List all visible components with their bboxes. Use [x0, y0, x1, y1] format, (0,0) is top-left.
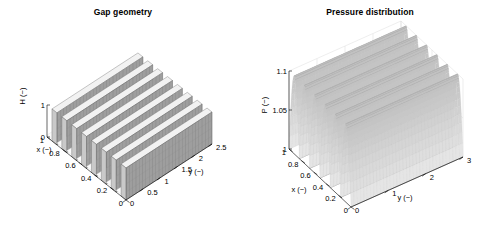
xtick-left: 0	[119, 199, 123, 208]
ytick-right: 3	[467, 156, 471, 165]
gap-geometry-axes: 00.20.40.60.8100.511.522.501 H (−) x (−)…	[0, 0, 246, 231]
xtick-left: 0.2	[97, 186, 107, 195]
xtick-left: 0.4	[81, 174, 91, 183]
xtick-right: 0.8	[288, 160, 298, 169]
ytick-left: 0.5	[147, 188, 157, 197]
ztick-left: 1	[41, 101, 45, 110]
xtick-right: 0.6	[300, 171, 310, 180]
ztick-right: 1	[283, 145, 287, 154]
xtick-left: 0.6	[65, 161, 75, 170]
ztick-left: 0	[41, 133, 45, 142]
xaxis-label-right: x (−)	[291, 185, 307, 194]
pressure-surface	[289, 26, 463, 207]
xtick-right: 0.4	[313, 183, 323, 192]
ytick-right: 0	[355, 206, 359, 215]
ytick-right: 1	[392, 189, 396, 198]
gap-geometry-surface	[47, 53, 212, 200]
ytick-left: 2	[199, 154, 203, 163]
panel-pressure-distribution: Pressure distribution 00.20.40.60.810123…	[247, 0, 493, 231]
ztick-right: 1.1	[277, 67, 287, 76]
panel-gap-geometry: Gap geometry 00.20.40.60.8100.511.522.50…	[0, 0, 246, 231]
zaxis-label-left: H (−)	[18, 87, 27, 104]
ytick-left: 1	[164, 177, 168, 186]
ztick-right: 1.05	[272, 106, 287, 115]
yaxis-label-left: y (−)	[188, 167, 204, 176]
yaxis-label-right: y (−)	[397, 193, 413, 202]
figure-canvas: Gap geometry 00.20.40.60.8100.511.522.50…	[0, 0, 493, 231]
xtick-right: 0.2	[325, 194, 335, 203]
ytick-left: 2.5	[216, 143, 226, 152]
xaxis-label-left: x (−)	[36, 145, 52, 154]
xtick-right: 0	[344, 206, 348, 215]
ytick-right: 2	[430, 173, 434, 182]
ytick-left: 0	[130, 199, 134, 208]
zaxis-label-right: P (−)	[260, 96, 269, 113]
pressure-axes: 00.20.40.60.81012311.051.1 P (−) x (−) y…	[247, 0, 493, 231]
